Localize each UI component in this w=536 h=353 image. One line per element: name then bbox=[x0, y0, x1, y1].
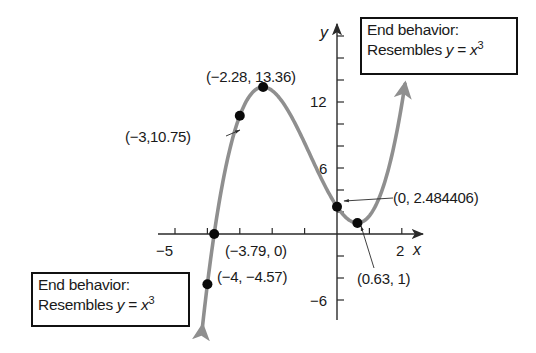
point-label-neg4: (−4, −4.57) bbox=[217, 268, 287, 285]
point-label-neg3: (−3,10.75) bbox=[125, 128, 191, 145]
end-behavior-box-top-right: End behavior: Resembles y = x3 bbox=[360, 17, 518, 75]
x-axis-label: x bbox=[412, 241, 422, 258]
x-axis bbox=[158, 228, 423, 234]
end-behavior-equation: Resembles y = x3 bbox=[367, 40, 511, 60]
data-point bbox=[332, 202, 342, 212]
point-label-yint: (0, 2.484406) bbox=[393, 189, 479, 206]
leader-line-min bbox=[361, 226, 374, 268]
x-tick-label-neg5: −5 bbox=[156, 242, 173, 259]
y-tick-label-neg6: −6 bbox=[310, 292, 327, 309]
data-point bbox=[202, 279, 212, 289]
point-label-min: (0.63, 1) bbox=[357, 270, 410, 287]
end-behavior-box-bottom-left: End behavior: Resembles y = x3 bbox=[31, 272, 190, 327]
point-label-max: (−2.28, 13.36) bbox=[206, 68, 296, 85]
y-axis-ticks bbox=[337, 36, 344, 300]
end-behavior-equation: Resembles y = x3 bbox=[38, 295, 183, 315]
cubic-curve bbox=[203, 84, 406, 326]
data-point bbox=[235, 111, 245, 121]
x-tick-label-2: 2 bbox=[396, 242, 404, 259]
y-axis-label: y bbox=[319, 24, 329, 41]
leader-line-yint bbox=[344, 198, 393, 201]
x-axis-ticks bbox=[175, 228, 402, 234]
end-behavior-title: End behavior: bbox=[38, 275, 183, 295]
point-label-xint: (−3.79, 0) bbox=[225, 242, 287, 259]
y-axis bbox=[337, 24, 344, 320]
y-tick-label-12: 12 bbox=[310, 93, 327, 110]
data-point bbox=[209, 229, 219, 239]
data-point bbox=[352, 218, 362, 228]
end-behavior-title: End behavior: bbox=[367, 20, 511, 40]
